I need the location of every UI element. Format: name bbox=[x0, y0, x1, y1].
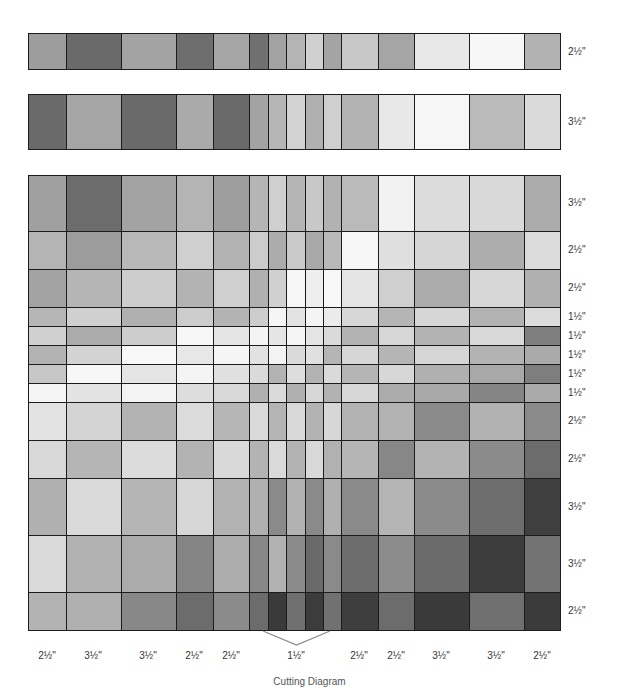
narrow-columns-brace-icon bbox=[0, 0, 619, 687]
diagram-caption: Cutting Diagram bbox=[0, 676, 619, 687]
